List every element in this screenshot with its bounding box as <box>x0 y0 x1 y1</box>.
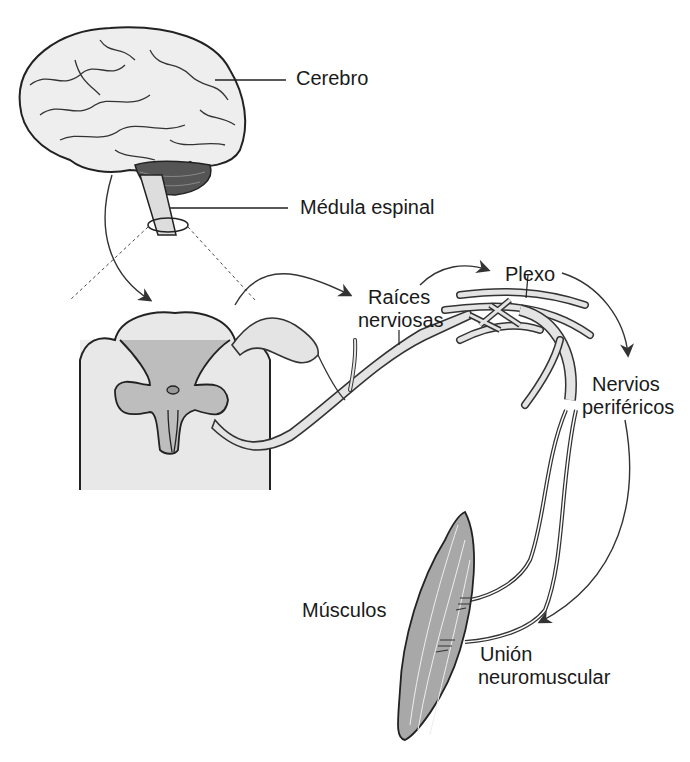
label-nervios-2: periféricos <box>582 395 674 419</box>
nervous-system-diagram <box>0 0 690 762</box>
label-cerebro: Cerebro <box>296 66 368 90</box>
label-musculos: Músculos <box>302 598 386 622</box>
label-raices-1: Raíces <box>368 285 430 309</box>
arrow-to-plexus <box>420 266 488 285</box>
arrow-to-roots <box>235 274 350 305</box>
peripheral-nerves <box>465 410 576 642</box>
label-raices-2: nerviosas <box>358 308 444 332</box>
plexus <box>445 275 590 405</box>
arrow-to-nerves <box>562 273 628 355</box>
label-medula-espinal: Médula espinal <box>300 195 435 219</box>
label-union-2: neuromuscular <box>478 665 610 689</box>
label-plexo: Plexo <box>505 262 555 286</box>
projection-line-right <box>188 227 255 300</box>
brain-illustration <box>20 27 288 235</box>
muscle-illustration <box>398 512 474 740</box>
label-union-1: Unión <box>480 642 532 666</box>
label-nervios-1: Nervios <box>592 372 660 396</box>
arrow-to-cross-section <box>105 175 150 300</box>
